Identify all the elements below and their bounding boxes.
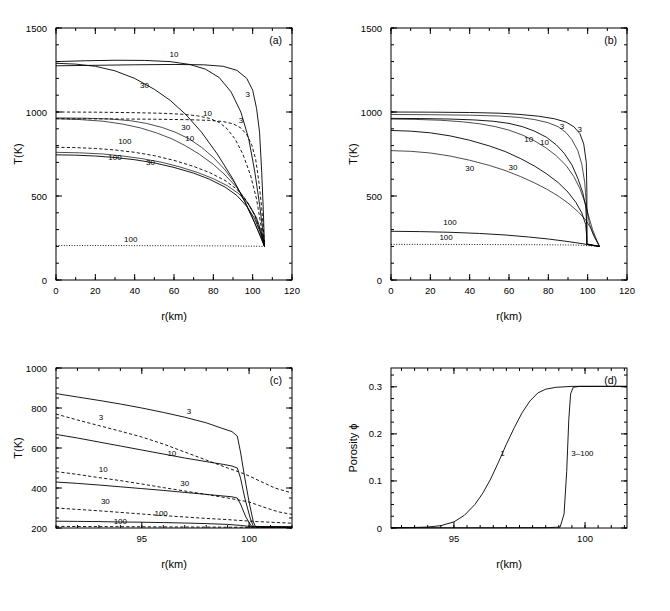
curve-label: 3 (99, 413, 104, 422)
curve-label: 100 (443, 218, 457, 227)
curve-label: 3–100 (571, 449, 594, 458)
curve-label: 30 (181, 123, 190, 132)
curve-30-dash (56, 508, 292, 523)
x-tick-label: 100 (241, 533, 257, 544)
x-tick-label: 80 (208, 285, 219, 296)
x-axis-title: r(km) (496, 558, 522, 570)
curve-100-dot (56, 246, 264, 247)
curve-label: 10 (167, 449, 176, 458)
panel-d-plot: 9510000.10.20.3r(km)Porosity ϕ(d)13–100 (335, 350, 670, 611)
y-tick-label: 500 (366, 191, 382, 202)
y-axis-title: Porosity ϕ (347, 424, 359, 473)
curve-label: 30 (180, 479, 189, 488)
curve-10-dash (56, 472, 292, 515)
panel-c: 951002004006008001000r(km)T(K)(c)3310103… (0, 350, 335, 611)
curve-label: 30 (146, 158, 155, 167)
curve-3-solid (56, 394, 292, 527)
x-axis-title: r(km) (496, 310, 522, 322)
x-axis-title: r(km) (161, 310, 187, 322)
x-tick-label: 100 (245, 285, 261, 296)
y-tick-label: 600 (31, 443, 47, 454)
panel-b-plot: 020406080100120050010001500r(km)T(K)(b)3… (335, 0, 670, 355)
curve-label: 10 (203, 109, 212, 118)
curve-10-thin (56, 119, 264, 247)
panel-label: (b) (604, 34, 617, 46)
curve-30-solid (56, 482, 292, 527)
curve-label: 30 (140, 81, 149, 90)
x-tick-label: 60 (169, 285, 180, 296)
curve-label: 100 (154, 509, 168, 518)
panel-a-plot: 020406080100120050010001500r(km)T(K)(a)3… (0, 0, 335, 355)
y-tick-label: 0.2 (369, 428, 382, 439)
panel-c-plot: 951002004006008001000r(km)T(K)(c)3310103… (0, 350, 335, 611)
curve-label: 10 (170, 50, 179, 59)
curve-label: 100 (108, 153, 122, 162)
y-tick-label: 1000 (26, 107, 47, 118)
x-tick-label: 100 (577, 533, 593, 544)
x-tick-label: 20 (90, 285, 101, 296)
y-tick-label: 200 (31, 523, 47, 534)
curve-label: 3 (560, 122, 565, 131)
x-tick-label: 60 (504, 285, 515, 296)
x-tick-label: 120 (284, 285, 300, 296)
curve-label: 3 (578, 125, 583, 134)
panel-label: (d) (604, 374, 617, 386)
figure-root: 020406080100120050010001500r(km)T(K)(a)3… (0, 0, 670, 611)
curve-30 (56, 63, 264, 246)
curve-3-dash (56, 119, 264, 247)
curve-label: 3 (246, 90, 251, 99)
curve-3-thin (391, 115, 599, 247)
y-tick-label: 0 (377, 523, 382, 534)
y-tick-label: 1000 (361, 107, 382, 118)
y-tick-label: 1500 (26, 23, 47, 34)
curve-30 (391, 130, 599, 246)
x-tick-label: 40 (464, 285, 475, 296)
x-tick-label: 0 (388, 285, 393, 296)
y-tick-label: 500 (31, 191, 47, 202)
y-tick-label: 800 (31, 403, 47, 414)
curve-30-faint (56, 152, 264, 246)
x-axis-title: r(km) (161, 558, 187, 570)
curve-label: 30 (465, 164, 474, 173)
y-tick-label: 1000 (26, 363, 47, 374)
curve-label: 100 (118, 137, 132, 146)
x-tick-label: 95 (449, 533, 460, 544)
curve-100-solid (56, 155, 264, 247)
curve-label: 10 (524, 135, 533, 144)
y-axis-title: T(K) (12, 143, 24, 164)
x-tick-label: 20 (425, 285, 436, 296)
y-tick-label: 0.1 (369, 475, 382, 486)
curve-100-dot (391, 244, 599, 246)
curve-label: 100 (439, 233, 453, 242)
plot-frame-d (391, 368, 627, 528)
y-tick-label: 1500 (361, 23, 382, 34)
plot-frame-c (56, 368, 292, 528)
panel-label: (a) (269, 34, 282, 46)
curve-label: 10 (185, 134, 194, 143)
x-tick-label: 100 (580, 285, 596, 296)
y-tick-label: 0 (377, 275, 382, 286)
y-axis-title: T(K) (12, 437, 24, 458)
panel-a: 020406080100120050010001500r(km)T(K)(a)3… (0, 0, 335, 355)
curve-label: 3 (187, 407, 192, 416)
curve-label: 10 (99, 465, 108, 474)
y-axis-title: T(K) (347, 143, 359, 164)
x-tick-label: 120 (619, 285, 635, 296)
curve-label: 100 (124, 235, 138, 244)
x-tick-label: 40 (129, 285, 140, 296)
x-tick-label: 80 (543, 285, 554, 296)
panel-d: 9510000.10.20.3r(km)Porosity ϕ(d)13–100 (335, 350, 670, 611)
curve-10 (391, 118, 599, 246)
y-tick-label: 400 (31, 483, 47, 494)
curve-label: 100 (114, 517, 128, 526)
curve-label: 30 (101, 497, 110, 506)
panel-b: 020406080100120050010001500r(km)T(K)(b)3… (335, 0, 670, 355)
panel-label: (c) (270, 374, 282, 386)
curve-label: 30 (508, 163, 517, 172)
curve-label: 1 (500, 449, 505, 458)
x-tick-label: 95 (137, 533, 148, 544)
y-tick-label: 0.3 (369, 381, 382, 392)
curve-label: 3 (239, 116, 244, 125)
plot-frame-b (391, 28, 627, 280)
curve-10-thin (391, 119, 599, 246)
